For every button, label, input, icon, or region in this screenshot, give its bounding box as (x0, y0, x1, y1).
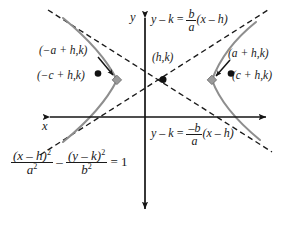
asym-pos-factor: (x – h) (196, 12, 227, 26)
standard-form-equation: (x – h)2 a2 – (y – k)2 b2 = 1 (11, 149, 128, 177)
standard-form-num-y-exponent: 2 (101, 147, 105, 156)
standard-form-num-x-text: (x – h) (13, 148, 47, 163)
standard-form-operator: – (56, 154, 63, 169)
y-axis-label: y (130, 11, 136, 24)
standard-form-term-x: (x – h)2 a2 (11, 149, 53, 177)
asym-pos-equals: = (177, 12, 184, 26)
asym-neg-equals: = (177, 126, 184, 140)
center-label: (h,k) (152, 52, 173, 64)
asym-pos-k: k (168, 12, 173, 26)
center-dot (160, 76, 167, 83)
asym-neg-k: k (168, 126, 173, 140)
x-axis-label: x (42, 120, 48, 133)
standard-form-num-y: (y – k)2 (66, 149, 107, 163)
right-focus-label: (c + h,k) (232, 70, 272, 82)
left-focus-label: (−c + h,k) (37, 70, 85, 82)
asym-neg-numerator: –b (186, 122, 202, 135)
asym-neg-y: y (151, 126, 156, 140)
standard-form-den-x: a2 (11, 163, 53, 176)
standard-form-den-y: b2 (66, 163, 107, 176)
asymptote-negative-equation: y – k = –b a (x – h) (151, 122, 234, 147)
right-vertex-label: (a + h,k) (228, 48, 269, 60)
asym-neg-minus: – (159, 126, 165, 140)
asym-neg-fraction: –b a (186, 122, 202, 147)
asym-pos-minus: – (159, 12, 165, 26)
asym-pos-numerator: b (186, 8, 196, 21)
asym-pos-denominator: a (186, 21, 196, 33)
hyperbola-figure: y x (−a + h,k) (−c + h,k) (h,k) (a + h,k… (0, 0, 282, 227)
figure-vector-layer (0, 0, 282, 227)
right-vertex-marker (207, 75, 216, 84)
left-vertex-label: (−a + h,k) (39, 45, 87, 57)
standard-form-num-x-exponent: 2 (47, 147, 51, 156)
standard-form-den-x-exponent: 2 (33, 161, 37, 170)
left-focus-dot (95, 70, 102, 77)
standard-form-term-y: (y – k)2 b2 (66, 149, 107, 177)
asym-neg-factor: (x – h) (202, 126, 233, 140)
standard-form-den-y-exponent: 2 (88, 161, 92, 170)
asym-neg-denominator: a (186, 135, 202, 147)
asym-pos-fraction: b a (186, 8, 196, 33)
asym-pos-y: y (151, 12, 156, 26)
standard-form-num-x: (x – h)2 (11, 149, 53, 163)
standard-form-num-y-text: (y – k) (68, 148, 101, 163)
left-vertex-marker (112, 75, 121, 84)
asymptote-positive-equation: y – k = b a (x – h) (151, 8, 228, 33)
standard-form-equals-one: = 1 (110, 154, 127, 169)
